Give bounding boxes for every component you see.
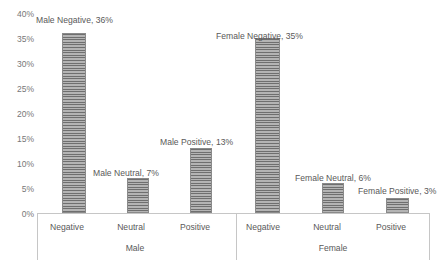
bar-male-negative xyxy=(62,33,86,213)
bar-female-positive xyxy=(386,198,409,213)
x-category-label-female-positive: Positive xyxy=(362,222,420,232)
bar-female-negative xyxy=(255,38,280,213)
x-category-label-male-neutral: Neutral xyxy=(102,222,160,232)
bar-male-positive xyxy=(190,148,212,213)
data-label-male-negative: Male Negative, 36% xyxy=(36,15,113,26)
y-tick-label-40: 40% xyxy=(2,9,34,19)
bar-chart: 40% 35% 30% 25% 20% 15% 10% 5% 0% Male N… xyxy=(0,0,448,266)
y-axis: 40% 35% 30% 25% 20% 15% 10% 5% 0% xyxy=(0,0,34,266)
x-category-label-male-negative: Negative xyxy=(38,222,96,232)
x-axis-line xyxy=(37,213,429,214)
x-axis-tick-middle xyxy=(236,213,237,260)
y-tick-label-15: 15% xyxy=(2,134,34,144)
y-tick-label-0: 0% xyxy=(2,209,34,219)
data-label-male-neutral: Male Neutral, 7% xyxy=(93,168,159,179)
x-category-label-male-positive: Positive xyxy=(166,222,224,232)
y-tick-label-20: 20% xyxy=(2,109,34,119)
y-tick-label-30: 30% xyxy=(2,59,34,69)
x-axis-tick-start xyxy=(37,213,38,260)
y-tick-label-5: 5% xyxy=(2,184,34,194)
x-category-label-female-neutral: Neutral xyxy=(298,222,356,232)
data-label-female-negative: Female Negative, 35% xyxy=(216,31,303,42)
y-tick-label-10: 10% xyxy=(2,159,34,169)
x-group-label-male: Male xyxy=(80,243,190,253)
x-axis-tick-end xyxy=(429,213,430,260)
bar-female-neutral xyxy=(322,183,344,213)
data-label-female-positive: Female Positive, 3% xyxy=(358,186,436,197)
x-category-label-female-negative: Negative xyxy=(234,222,292,232)
data-label-male-positive: Male Positive, 13% xyxy=(160,137,233,148)
data-label-female-neutral: Female Neutral, 6% xyxy=(295,173,371,184)
x-group-label-female: Female xyxy=(278,243,388,253)
y-tick-label-35: 35% xyxy=(2,34,34,44)
y-tick-label-25: 25% xyxy=(2,84,34,94)
bar-male-neutral xyxy=(127,178,149,213)
